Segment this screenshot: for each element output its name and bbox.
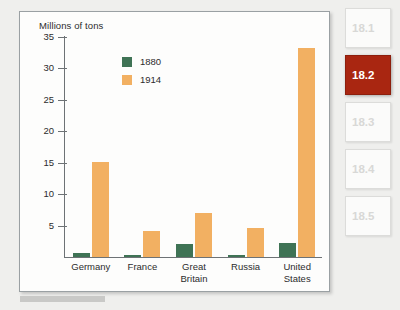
- section-tab-18-2[interactable]: 18.2: [345, 55, 391, 95]
- section-tab-18-3[interactable]: 18.3: [345, 102, 391, 142]
- bar-1880: [73, 253, 90, 257]
- bar-group: [220, 37, 272, 257]
- y-axis-tick-label: 10: [30, 188, 54, 199]
- y-axis-tick: [58, 68, 67, 69]
- y-axis-tick: [58, 100, 67, 101]
- bar-1914: [247, 228, 264, 257]
- y-axis-tick: [58, 226, 67, 227]
- bottom-divider: [20, 296, 105, 302]
- section-tab-18-5[interactable]: 18.5: [345, 196, 391, 236]
- bar-group: [65, 37, 117, 257]
- x-axis-tick-label: United States: [271, 261, 323, 284]
- bar-1914: [298, 48, 315, 257]
- bar-1880: [228, 255, 245, 257]
- bar-groups: [65, 37, 323, 257]
- y-axis-tick-label: 30: [30, 62, 54, 73]
- x-axis-tick-label: Germany: [65, 261, 117, 273]
- y-axis-tick: [58, 194, 67, 195]
- x-axis-tick-label: Great Britain: [168, 261, 220, 284]
- y-axis-tick-labels: 5101520253035: [28, 12, 54, 291]
- bar-group: [168, 37, 220, 257]
- y-axis-tick: [58, 37, 67, 38]
- bar-1880: [176, 244, 193, 257]
- y-axis-tick-label: 35: [30, 31, 54, 42]
- y-axis-tick-label: 15: [30, 157, 54, 168]
- y-axis-tick-label: 5: [30, 220, 54, 231]
- x-axis-line: [64, 257, 322, 258]
- bar-group: [271, 37, 323, 257]
- section-tab-18-4[interactable]: 18.4: [345, 149, 391, 189]
- bar-1880: [124, 255, 141, 258]
- bar-1914: [195, 213, 212, 257]
- y-axis-tick: [58, 163, 67, 164]
- x-axis-tick-label: Russia: [220, 261, 272, 273]
- chart-panel: Millions of tons 5101520253035 18801914 …: [19, 11, 330, 292]
- bar-1880: [279, 243, 296, 257]
- y-axis-tick-label: 20: [30, 125, 54, 136]
- chart-plot-area: Millions of tons 5101520253035 18801914 …: [20, 12, 329, 291]
- section-rail: 18.118.218.318.418.5: [345, 8, 391, 243]
- bar-1914: [92, 162, 109, 257]
- y-axis-tick: [58, 131, 67, 132]
- x-axis-tick-label: France: [117, 261, 169, 273]
- section-tab-18-1[interactable]: 18.1: [345, 8, 391, 48]
- y-axis-tick-label: 25: [30, 94, 54, 105]
- bar-group: [117, 37, 169, 257]
- bar-1914: [143, 231, 160, 257]
